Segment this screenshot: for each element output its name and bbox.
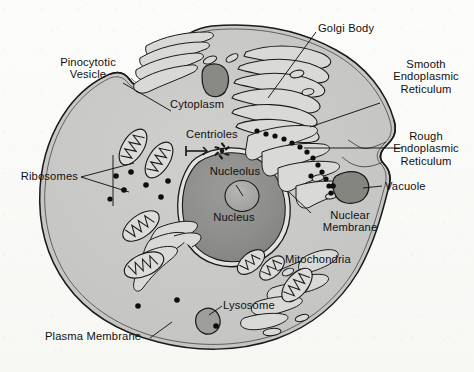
vacuole-shape bbox=[333, 172, 369, 204]
lysosome-shape bbox=[196, 308, 221, 334]
cell-illustration bbox=[0, 0, 474, 372]
vacuole-shape-upper bbox=[202, 64, 229, 97]
cell-diagram: Pinocytotic Vesicle Ribosomes Plasma Mem… bbox=[0, 0, 474, 372]
nucleolus-shape bbox=[225, 181, 259, 212]
